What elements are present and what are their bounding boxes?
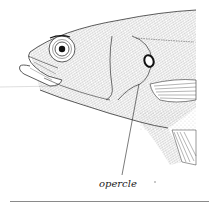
eye: [49, 36, 75, 62]
fish-head-illustration: [0, 0, 209, 208]
opercle-label: opercle: [99, 178, 137, 189]
bottom-rule: [10, 201, 209, 202]
fish-drawing: [0, 0, 209, 208]
